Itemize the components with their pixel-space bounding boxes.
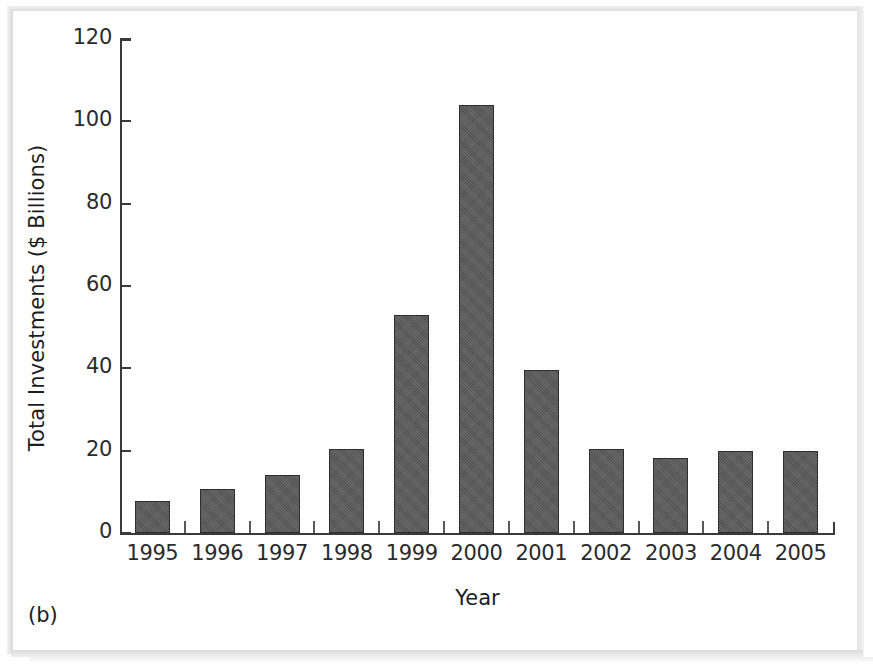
x-tick-label-1996: 1996 (185, 541, 250, 565)
x-tick-3 (378, 521, 380, 533)
x-tick-label-2002: 2002 (574, 541, 639, 565)
x-tick-label-2001: 2001 (509, 541, 574, 565)
bar-1998 (329, 449, 364, 533)
x-tick-label-1999: 1999 (379, 541, 444, 565)
y-tick-120 (120, 38, 131, 40)
bar-1997 (265, 475, 300, 533)
x-tick-label-2004: 2004 (703, 541, 768, 565)
y-tick-20 (120, 450, 131, 452)
y-tick-label-60: 60 (60, 272, 112, 296)
bar-1999 (394, 315, 429, 533)
x-axis-end-tick (833, 522, 835, 535)
y-tick-label-0: 0 (60, 519, 112, 543)
bar-2005 (783, 451, 818, 533)
y-tick-label-100: 100 (60, 107, 112, 131)
bar-1995 (135, 501, 170, 533)
bar-2000 (459, 105, 494, 533)
x-tick-0 (184, 521, 186, 533)
x-tick-label-2003: 2003 (639, 541, 704, 565)
figure-caption: (b) (28, 603, 58, 627)
x-tick-7 (638, 521, 640, 533)
bar-2003 (653, 458, 688, 533)
x-tick-label-1997: 1997 (250, 541, 315, 565)
bar-2004 (718, 451, 753, 533)
y-tick-label-80: 80 (60, 190, 112, 214)
x-tick-9 (767, 521, 769, 533)
y-axis-title: Total Investments ($ Billions) (25, 78, 49, 518)
y-axis-labels: 020406080100120 (50, 0, 112, 671)
x-axis-title: Year (120, 586, 835, 610)
x-tick-1 (249, 521, 251, 533)
y-tick-0 (120, 532, 131, 534)
x-axis-line (120, 533, 835, 535)
x-tick-label-1998: 1998 (314, 541, 379, 565)
x-tick-4 (443, 521, 445, 533)
y-tick-40 (120, 367, 131, 369)
bar-2002 (589, 449, 624, 533)
bar-chart: 020406080100120 199519961997199819992000… (0, 0, 873, 671)
y-tick-label-20: 20 (60, 437, 112, 461)
bar-1996 (200, 489, 235, 533)
y-tick-label-40: 40 (60, 354, 112, 378)
x-tick-8 (702, 521, 704, 533)
x-tick-label-1995: 1995 (120, 541, 185, 565)
x-tick-label-2000: 2000 (444, 541, 509, 565)
x-tick-5 (508, 521, 510, 533)
y-axis-line (120, 39, 122, 535)
x-tick-label-2005: 2005 (768, 541, 833, 565)
x-tick-2 (313, 521, 315, 533)
y-tick-100 (120, 120, 131, 122)
y-tick-label-120: 120 (60, 25, 112, 49)
bar-2001 (524, 370, 559, 533)
y-tick-60 (120, 285, 131, 287)
y-tick-80 (120, 203, 131, 205)
x-tick-6 (573, 521, 575, 533)
